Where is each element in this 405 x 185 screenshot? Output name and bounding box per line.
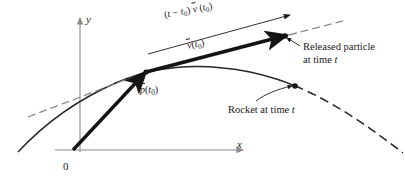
rocket-dot	[292, 83, 298, 89]
position-vector-label: p(t0)	[140, 84, 158, 97]
rocket-time-variable: t	[292, 104, 295, 115]
released-particle-dot	[282, 33, 288, 39]
released-particle-line2: at time t	[303, 53, 375, 66]
rocket-at-time: Rocket at time	[228, 104, 292, 115]
origin-label: 0	[63, 160, 69, 173]
released-particle-label: Released particle at time t	[303, 40, 375, 66]
position-close: )	[155, 84, 158, 95]
released-particle-leader	[287, 38, 300, 46]
vector-kinematics-diagram: (t − t0) v (t0) v(t0) p(t0) Released par…	[0, 0, 405, 185]
position-p-symbol: p	[140, 84, 145, 96]
rocket-leader	[256, 86, 292, 101]
rocket-label: Rocket at time t	[228, 104, 295, 116]
x-axis-label: x	[237, 138, 242, 151]
diagram-canvas	[0, 0, 405, 185]
y-axis-label: y	[86, 13, 91, 26]
position-vector	[73, 74, 144, 150]
trajectory-curve-dashed	[295, 86, 403, 153]
tangent-point-dot	[143, 69, 148, 74]
released-particle-at-time: at time	[303, 54, 335, 65]
released-particle-time-variable: t	[335, 54, 338, 65]
released-particle-line1: Released particle	[303, 40, 375, 53]
tangent-line-forward	[289, 20, 347, 35]
